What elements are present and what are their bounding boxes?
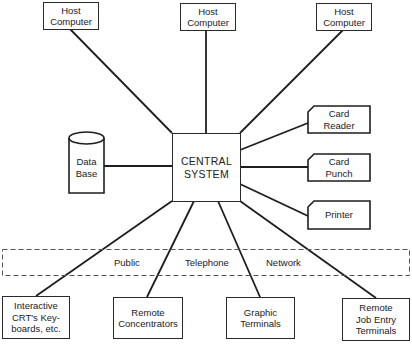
host-computer-3-label: Host Computer — [323, 6, 365, 29]
graphic-terminals-label: Graphic Terminals — [240, 307, 281, 330]
central-system-label: CENTRAL SYSTEM — [181, 155, 232, 181]
network-word-public: Public — [114, 257, 140, 268]
link-interactive — [36, 201, 172, 296]
card-punch: Card Punch — [308, 154, 370, 181]
printer: Printer — [308, 201, 370, 229]
host-computer-1-label: Host Computer — [50, 5, 92, 28]
data-base-text: Data Base — [69, 156, 104, 179]
network-word-network: Network — [266, 257, 301, 268]
link-card-reader — [240, 123, 308, 150]
central-system: CENTRAL SYSTEM — [172, 133, 241, 202]
host-computer-2-label: Host Computer — [187, 6, 229, 29]
remote-job-entry-terminals: Remote Job Entry Terminals — [342, 298, 410, 341]
graphic-terminals: Graphic Terminals — [226, 297, 295, 339]
interactive-crt-label: Interactive CRT's Key- boards, etc. — [11, 300, 61, 335]
printer-label: Printer — [325, 209, 353, 221]
link-host-1 — [70, 29, 172, 133]
host-computer-3: Host Computer — [316, 3, 372, 31]
card-reader-label: Card Reader — [323, 108, 354, 131]
network-word-telephone: Telephone — [185, 257, 229, 268]
card-punch-label: Card Punch — [326, 156, 353, 179]
rje-terminals-label: Remote Job Entry Terminals — [356, 302, 397, 337]
link-printer — [240, 184, 308, 216]
host-computer-2: Host Computer — [180, 3, 236, 31]
interactive-crt-keyboards: Interactive CRT's Key- boards, etc. — [2, 296, 70, 339]
data-base-label: Data Base — [69, 156, 104, 179]
remote-concentrators: Remote Concentrators — [113, 297, 183, 339]
host-computer-1: Host Computer — [43, 2, 99, 30]
remote-concentrators-label: Remote Concentrators — [118, 307, 178, 330]
card-reader: Card Reader — [308, 106, 370, 133]
